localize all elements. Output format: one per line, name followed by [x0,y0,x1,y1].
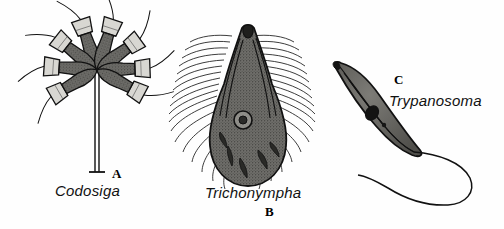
trypanosoma-flagellum [358,152,472,205]
trypanosoma-anterior-tip [333,62,340,70]
panel-letter-a: A [112,166,121,182]
genus-label-codosiga: Codosiga [55,182,120,199]
organism-trichonympha [169,25,315,189]
panel-letter-c: C [394,72,403,88]
trichonympha-body [210,25,287,186]
codosiga-stalk [89,72,105,172]
panel-letter-b: B [265,204,274,220]
trichonympha-nucleus [234,111,252,129]
trichonympha-rostrum [243,25,253,38]
figure-canvas: Codosiga A Trichonympha B Trypanosoma C [0,0,504,229]
codosiga-collar-cells [18,0,175,124]
trypanosoma-kinetoplast [382,123,386,127]
genus-label-trichonympha: Trichonympha [205,184,301,201]
organism-codosiga [18,0,175,172]
genus-label-trypanosoma: Trypanosoma [389,92,482,109]
